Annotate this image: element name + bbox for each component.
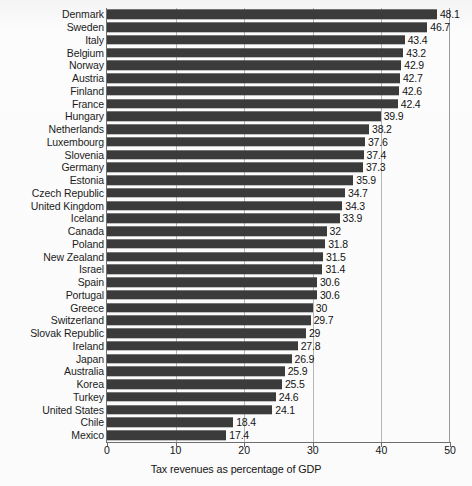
bar-row: Spain30.6 [0, 276, 472, 289]
x-tick-label: 50 [444, 445, 456, 456]
bar [107, 354, 292, 363]
category-label: Slovak Republic [30, 328, 104, 339]
x-tick-label: 10 [170, 445, 182, 456]
bar-row: Netherlands38.2 [0, 123, 472, 136]
bar-value-label: 37.6 [368, 137, 388, 148]
category-label: Belgium [67, 47, 104, 58]
bar-value-label: 34.3 [345, 200, 365, 211]
bar-row: Luxembourg37.6 [0, 136, 472, 149]
bar [107, 10, 437, 19]
bar-value-label: 42.9 [404, 60, 424, 71]
bar-value-label: 27.8 [301, 341, 321, 352]
bar-chart: Denmark48.1Sweden46.7Italy43.4Belgium43.… [0, 0, 472, 486]
bar-row: Italy43.4 [0, 34, 472, 47]
bar-value-label: 42.7 [403, 73, 423, 84]
bar-value-label: 30.6 [320, 290, 340, 301]
bar [107, 175, 353, 184]
category-label: Spain [78, 277, 104, 288]
bar-row: Greece30 [0, 301, 472, 314]
x-axis [106, 442, 450, 443]
category-label: New Zealand [43, 251, 104, 262]
bar-value-label: 46.7 [430, 22, 450, 33]
bar-value-label: 34.7 [348, 188, 368, 199]
bar-value-label: 31.5 [326, 251, 346, 262]
bar [107, 201, 342, 210]
category-label: Switzerland [51, 315, 104, 326]
bar-row: Denmark48.1 [0, 8, 472, 21]
bar-value-label: 25.9 [288, 366, 308, 377]
bar-value-label: 24.6 [279, 392, 299, 403]
bar [107, 226, 327, 235]
x-tick-label: 40 [376, 445, 388, 456]
x-tick-label: 0 [104, 445, 110, 456]
bar [107, 86, 399, 95]
category-label: Turkey [73, 392, 104, 403]
bar-row: Sweden46.7 [0, 21, 472, 34]
bar [107, 379, 282, 388]
bar-row: Israel31.4 [0, 263, 472, 276]
bar-value-label: 30 [316, 302, 327, 313]
bar [107, 61, 401, 70]
bar-value-label: 17.4 [229, 430, 249, 441]
bar-value-label: 32 [330, 226, 341, 237]
bar-row: Iceland33.9 [0, 212, 472, 225]
category-label: Norway [69, 60, 104, 71]
category-label: Portugal [66, 290, 104, 301]
bar-rows: Denmark48.1Sweden46.7Italy43.4Belgium43.… [0, 8, 472, 442]
bar [107, 418, 233, 427]
bar-row: Slovenia37.4 [0, 148, 472, 161]
bar-value-label: 43.4 [408, 35, 428, 46]
bar-row: Canada32 [0, 225, 472, 238]
category-label: United Kingdom [31, 200, 104, 211]
bar [107, 124, 369, 133]
category-label: Estonia [70, 175, 104, 186]
bar-value-label: 48.1 [440, 9, 460, 20]
category-label: Japan [76, 353, 104, 364]
category-label: Finland [70, 86, 104, 97]
bar-row: Australia25.9 [0, 365, 472, 378]
category-label: Netherlands [48, 124, 104, 135]
bar [107, 35, 405, 44]
bar-row: Belgium43.2 [0, 46, 472, 59]
bar [107, 73, 400, 82]
bar [107, 405, 272, 414]
category-label: Italy [85, 35, 104, 46]
bar [107, 252, 323, 261]
bar [107, 265, 322, 274]
x-tick-label: 30 [307, 445, 319, 456]
bar-row: Ireland27.8 [0, 340, 472, 353]
bar [107, 188, 345, 197]
bar-row: Austria42.7 [0, 72, 472, 85]
bar [107, 303, 313, 312]
bar [107, 48, 403, 57]
bar [107, 22, 427, 31]
category-label: Czech Republic [32, 188, 104, 199]
bar-row: Czech Republic34.7 [0, 187, 472, 200]
bar-value-label: 38.2 [372, 124, 392, 135]
bar [107, 112, 381, 121]
bar [107, 290, 317, 299]
bar [107, 367, 285, 376]
category-label: Slovenia [65, 149, 104, 160]
bar-value-label: 37.4 [367, 149, 387, 160]
bar-row: Portugal30.6 [0, 289, 472, 302]
bar-value-label: 42.4 [401, 98, 421, 109]
bar [107, 137, 365, 146]
category-label: Germany [62, 162, 104, 173]
bar-value-label: 31.8 [328, 239, 348, 250]
category-label: Ireland [73, 341, 104, 352]
bar-value-label: 35.9 [356, 175, 376, 186]
bar-value-label: 31.4 [325, 264, 345, 275]
bar-value-label: 39.9 [384, 111, 404, 122]
bar-row: Japan26.9 [0, 352, 472, 365]
bar-row: Mexico17.4 [0, 429, 472, 442]
bar-row: Estonia35.9 [0, 174, 472, 187]
bar-row: New Zealand31.5 [0, 250, 472, 263]
category-label: Sweden [67, 22, 104, 33]
bar-row: Korea25.5 [0, 378, 472, 391]
x-axis-title: Tax revenues as percentage of GDP [0, 463, 472, 475]
category-label: Chile [81, 417, 104, 428]
bar-row: Turkey24.6 [0, 391, 472, 404]
bar [107, 328, 306, 337]
bar-value-label: 43.2 [406, 47, 426, 58]
